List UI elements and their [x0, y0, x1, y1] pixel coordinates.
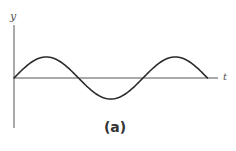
- sine-wave-figure: y t (a): [0, 0, 236, 151]
- figure-caption: (a): [100, 120, 130, 134]
- t-axis-label: t: [223, 72, 227, 82]
- y-axis-label: y: [10, 11, 16, 22]
